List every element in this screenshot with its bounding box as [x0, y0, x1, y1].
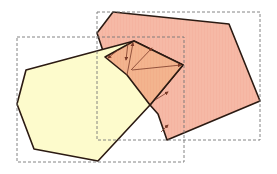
diagram-canvas — [0, 0, 277, 174]
